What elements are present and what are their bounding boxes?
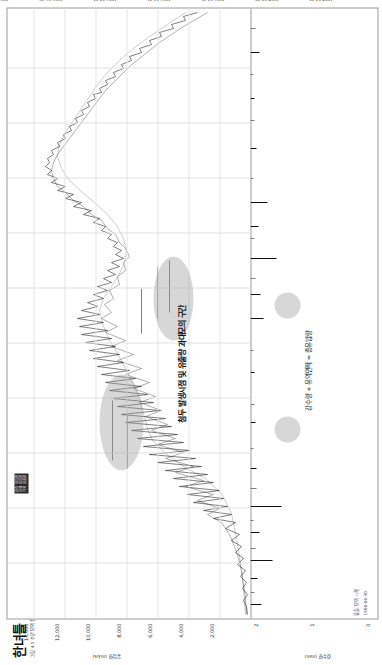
timeseries-plot	[7, 8, 250, 618]
main-panel: 첨두 발생시점 및 유출량 과대모의 구간	[7, 8, 251, 618]
ytick-12000: 12,000	[53, 623, 59, 649]
xtick-4: 1996-12-31	[201, 0, 224, 1]
main-y-axis-title: 유입량 (m3/s)	[92, 653, 120, 659]
ytick-2000: 2,000	[208, 623, 214, 649]
annotation-water-balance: 강수량 + 유역면적 = 총유입량	[302, 330, 312, 410]
rainfall-highlight-1	[274, 416, 300, 442]
rainfall-highlight-2	[274, 292, 300, 318]
ytick-14000: 14,000	[22, 623, 28, 649]
xtick-2: 1996-08-31	[93, 0, 116, 1]
sub-y-axis-title: 강수량 (mm)	[304, 653, 330, 659]
highlight-ellipse-1	[99, 374, 143, 470]
xtick-6: 1997-04-30	[309, 0, 332, 1]
ytick-10000: 10,000	[84, 623, 90, 649]
ytick-4000: 4,000	[177, 623, 183, 649]
sub-ytick-0: 0	[364, 623, 370, 641]
rainfall-bars	[250, 8, 377, 618]
ytick-8000: 8,000	[115, 623, 121, 649]
document-page: 한녀틀 그림 4.5 수문 모의 결과 비교 (유입량 시계열 및 강수 사상)	[0, 0, 382, 665]
xtick-3: 1996-10-31	[147, 0, 170, 1]
axis-start-date: 1996-04-30	[362, 591, 367, 615]
rotated-page: 한녀틀 그림 4.5 수문 모의 결과 비교 (유입량 시계열 및 강수 사상)	[0, 0, 382, 665]
chart-container: 첨두 발생시점 및 유출량 과대모의 구간	[6, 7, 378, 619]
highlight-ellipse-2	[153, 256, 193, 340]
sub-ytick-2: 2	[252, 623, 258, 641]
rainfall-panel: 강수량 + 유역면적 = 총유입량	[250, 8, 377, 618]
simulation-start-note: 유출 모의 시작	[352, 588, 358, 615]
sub-ytick-1: 1	[308, 623, 314, 641]
xtick-1: 1996-06-30	[39, 0, 62, 1]
xtick-5: 1997-02-28	[255, 0, 278, 1]
screenshot-frame: 한녀틀 그림 4.5 수문 모의 결과 비교 (유입량 시계열 및 강수 사상)	[0, 0, 382, 665]
legend-item-2: 기저 유출량	[23, 475, 27, 491]
annotation-peak-overestimate: 첨두 발생시점 및 유출량 과대모의 구간	[175, 304, 186, 422]
xtick-0: 1996-04-30	[0, 0, 8, 1]
legend-box: 관측 유입량 모의 유입량 기저 유출량	[14, 473, 28, 493]
ytick-6000: 6,000	[146, 623, 152, 649]
